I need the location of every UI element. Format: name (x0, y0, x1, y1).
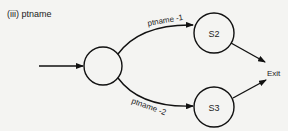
s3-label: S3 (208, 103, 219, 113)
edge-label-ptname-2: ptname -2 (130, 96, 167, 117)
exit-label: Exit (267, 69, 281, 78)
s2-exit-arrow (231, 43, 265, 62)
flow-diagram: S2 S3 Exit ptname -1 ptname -2 (0, 0, 288, 131)
start-node (84, 47, 122, 85)
edge-ptname-2 (118, 78, 193, 106)
s3-exit-arrow (233, 80, 266, 98)
s2-label: S2 (208, 29, 219, 39)
edge-ptname-1 (118, 25, 193, 54)
